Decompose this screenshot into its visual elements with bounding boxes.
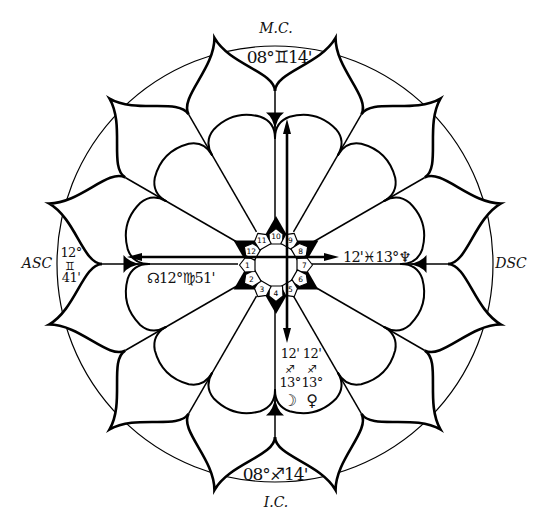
mc-sign-gemini-icon: ♊	[274, 47, 288, 67]
outer-petal	[348, 337, 473, 462]
north-node-degree: 12°	[159, 270, 182, 286]
house-number-5: 5	[288, 285, 293, 294]
house-number-3: 3	[259, 285, 264, 294]
venus-position: 12' ♐ 13° ♀	[301, 346, 322, 410]
neptune-minute: 12'	[343, 249, 363, 265]
house-number-12: 12	[247, 247, 257, 256]
mc-degree: 08°	[247, 47, 274, 67]
house-number-4: 4	[274, 289, 279, 298]
neptune-position: 12'♓13°♆	[343, 249, 411, 265]
cusp-line	[307, 178, 425, 246]
venus-icon: ♀	[306, 391, 318, 410]
cusp-line	[189, 296, 257, 414]
cusp-line	[125, 283, 243, 351]
north-node-icon: ☊	[147, 270, 159, 286]
house-number-1: 1	[245, 261, 250, 270]
moon-icon: ☽	[283, 391, 297, 410]
mc-label: M.C.	[258, 20, 292, 36]
outer-petal	[348, 67, 473, 192]
moon-position: 12' ♐ 13° ☽	[279, 346, 300, 410]
north-node-minute: 51'	[195, 270, 215, 286]
outer-petal	[78, 67, 203, 192]
neptune-sign-pisces-icon: ♓	[363, 249, 375, 265]
house-number-7: 7	[302, 261, 307, 270]
ic-label: I.C.	[263, 494, 289, 510]
venus-minute: 12'	[303, 346, 321, 361]
dsc-arrowhead-icon	[324, 253, 339, 261]
house-number-8: 8	[298, 247, 303, 256]
house-number-10: 10	[271, 232, 281, 241]
asc-label: ASC	[20, 255, 53, 271]
outer-petal	[78, 337, 203, 462]
venus-degree: 13°	[301, 375, 322, 390]
moon-minute: 12'	[281, 346, 299, 361]
cusp-line	[189, 114, 257, 232]
asc-degree: 12°	[60, 245, 81, 260]
mc-arrowhead-icon	[283, 119, 291, 134]
north-node-position: ☊12°♍51'	[147, 270, 215, 286]
moon-degree: 13°	[279, 375, 300, 390]
house-number-11: 11	[257, 236, 267, 245]
ic-position: 08°♐14'	[243, 464, 308, 484]
house-number-2: 2	[249, 275, 254, 284]
asc-minute: 41'	[62, 270, 80, 285]
cusp-line	[125, 178, 243, 246]
cusp-line	[294, 114, 362, 232]
dsc-label: DSC	[494, 255, 527, 271]
ic-minute: 14'	[284, 464, 307, 484]
mc-minute: 14'	[288, 47, 311, 67]
house-number-9: 9	[288, 236, 293, 245]
neptune-icon: ♆	[399, 249, 411, 265]
asc-position: 12° ♊ 41'	[60, 245, 81, 285]
north-node-sign-virgo-icon: ♍	[182, 270, 195, 286]
ic-arrowhead-icon	[283, 328, 291, 343]
mc-position: 08°♊14'	[247, 47, 312, 67]
house-number-6: 6	[298, 275, 303, 284]
ic-sign-sagittarius-icon: ♐	[270, 464, 284, 484]
ic-degree: 08°	[243, 464, 270, 484]
neptune-degree: 13°	[375, 249, 398, 265]
cusp-line	[307, 283, 425, 351]
lotus-chart-wheel: 1 2 3 4 5 6 7 8 9 10 11 12 M.C. 08°♊14' …	[0, 0, 547, 524]
